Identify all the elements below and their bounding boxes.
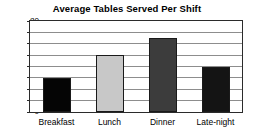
- bar-lunch: [96, 55, 124, 112]
- x-tick-label: Lunch: [83, 117, 136, 127]
- x-tick-label: Late-night: [189, 117, 242, 127]
- bar-dinner: [149, 38, 177, 112]
- gridline: [30, 32, 242, 33]
- y-tick-mark: [27, 100, 30, 101]
- y-tick-mark: [27, 112, 30, 113]
- y-tick-mark: [27, 43, 30, 44]
- bar-late-night: [202, 67, 230, 113]
- bar-breakfast: [43, 78, 71, 112]
- y-tick-mark: [27, 55, 30, 56]
- y-tick-mark: [27, 77, 30, 78]
- y-tick-mark: [27, 32, 30, 33]
- y-tick-mark: [27, 21, 30, 22]
- y-tick-mark: [27, 66, 30, 67]
- bar-chart: Average Tables Served Per Shift 01020304…: [0, 0, 254, 135]
- plot-area: [29, 20, 243, 113]
- chart-title: Average Tables Served Per Shift: [0, 3, 254, 14]
- y-tick-mark: [27, 89, 30, 90]
- x-tick-label: Breakfast: [30, 117, 83, 127]
- gridline: [30, 43, 242, 44]
- x-tick-label: Dinner: [136, 117, 189, 127]
- gridline: [30, 55, 242, 56]
